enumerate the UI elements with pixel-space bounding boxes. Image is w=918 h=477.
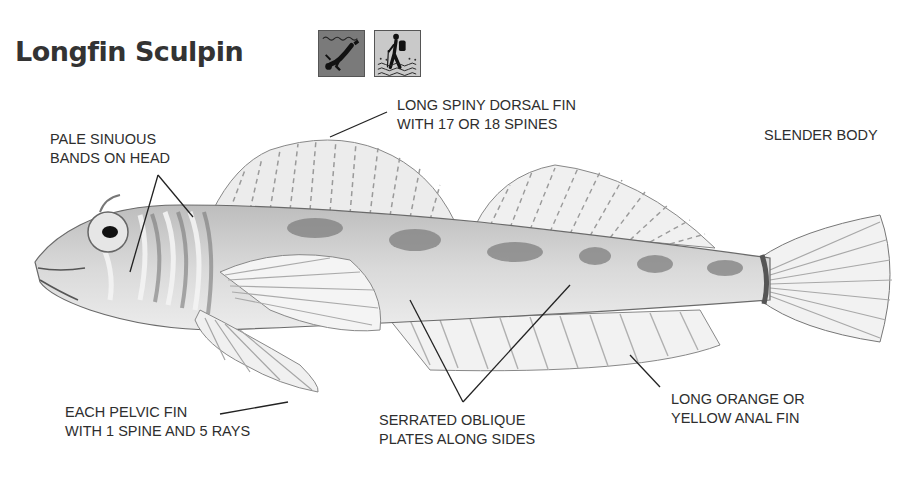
callout-head-bands: PALE SINUOUS BANDS ON HEAD	[50, 130, 170, 168]
callout-slender-body: SLENDER BODY	[764, 126, 878, 145]
callout-anal-fin: LONG ORANGE OR YELLOW ANAL FIN	[671, 390, 805, 428]
callout-serrated-plates: SERRATED OBLIQUE PLATES ALONG SIDES	[379, 411, 535, 449]
callout-dorsal-fin: LONG SPINY DORSAL FIN WITH 17 OR 18 SPIN…	[397, 96, 576, 134]
callout-pelvic-fin: EACH PELVIC FIN WITH 1 SPINE AND 5 RAYS	[65, 403, 250, 441]
